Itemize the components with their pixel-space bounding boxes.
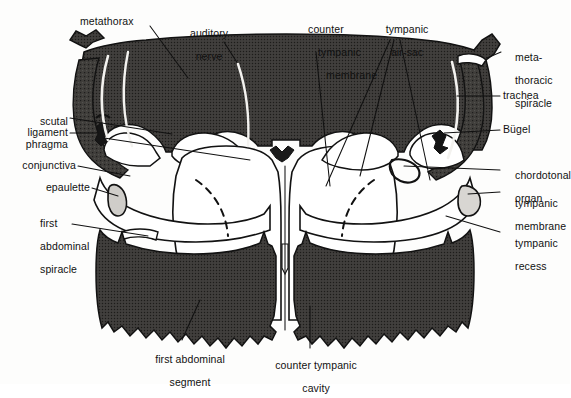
tympanic-membrane-shape bbox=[458, 186, 480, 216]
right-air-sac-cavity bbox=[322, 133, 398, 170]
label-ligament: ligament bbox=[0, 127, 68, 139]
label-first-abdominal-segment: first abdominal segment bbox=[128, 342, 240, 398]
label-tympanic-recess-line2: recess bbox=[515, 260, 547, 272]
label-auditory-nerve-line1: auditory bbox=[190, 27, 228, 39]
label-metathoracic-spiracle: meta- thoracic spiracle bbox=[503, 40, 553, 121]
label-counter-tympanic-membrane-line1: counter bbox=[308, 23, 344, 35]
label-tympanic-air-sac-line2: air-sac bbox=[391, 46, 423, 58]
label-counter-tympanic-membrane-line2: tympanic bbox=[308, 46, 361, 58]
label-counter-tympanic-membrane-line3: membrane bbox=[308, 69, 377, 81]
label-first-abdominal-segment-line1: first abdominal bbox=[155, 353, 225, 365]
label-counter-tympanic-cavity: counter tympanic cavity bbox=[254, 348, 366, 398]
label-auditory-nerve: auditory nerve bbox=[168, 16, 238, 74]
label-metathorax: metathorax bbox=[80, 16, 134, 28]
metathorax-cuticle bbox=[70, 30, 104, 48]
label-first-abdominal-spiracle-line3: spiracle bbox=[40, 263, 77, 275]
label-bugel: Bügel bbox=[503, 124, 530, 136]
label-counter-tympanic-cavity-line1: counter tympanic bbox=[275, 359, 357, 371]
label-tympanic-air-sac-line1: tympanic bbox=[386, 23, 429, 35]
label-trachea: trachea bbox=[503, 90, 539, 102]
label-auditory-nerve-line2: nerve bbox=[196, 50, 223, 62]
label-first-abdominal-spiracle-line2: abdominal bbox=[40, 240, 89, 252]
label-first-abdominal-segment-line2: segment bbox=[170, 376, 211, 388]
label-counter-tympanic-membrane: counter tympanic membrane bbox=[296, 12, 377, 93]
label-metathoracic-spiracle-line1: meta- bbox=[515, 51, 542, 63]
label-chordotonal-organ-line1: chordotonal bbox=[515, 169, 571, 181]
label-tympanic-recess: tympanic recess bbox=[503, 226, 558, 284]
label-tympanic-air-sac: tympanic air-sac bbox=[370, 12, 432, 70]
label-epaulette: epaulette bbox=[0, 182, 90, 194]
label-metathoracic-spiracle-line2: thoracic bbox=[515, 74, 553, 86]
label-scutal-phragma-line1: scutal bbox=[40, 115, 68, 127]
central-sclerite-bridge bbox=[270, 146, 294, 162]
label-first-abdominal-spiracle-line1: first bbox=[40, 217, 57, 229]
label-scutal-phragma-line2: phragma bbox=[26, 138, 68, 150]
label-tympanic-recess-line1: tympanic bbox=[515, 237, 558, 249]
label-tympanic-membrane-line1: tympanic bbox=[515, 197, 558, 209]
label-counter-tympanic-cavity-line2: cavity bbox=[302, 382, 329, 394]
epaulette-sclerite bbox=[108, 185, 127, 216]
label-conjunctiva: conjunctiva bbox=[0, 160, 76, 172]
label-first-abdominal-spiracle: first abdominal spiracle bbox=[28, 206, 89, 287]
